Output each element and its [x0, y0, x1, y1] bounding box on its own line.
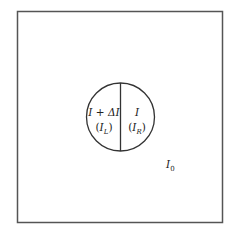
right-half-sub-label: (IR) — [128, 121, 146, 136]
right-half-main-label: I — [134, 106, 140, 118]
left-half-sub-label: (IL) — [95, 121, 112, 136]
diagram-canvas: I + ΔI (IL) I (IR) I0 — [0, 0, 234, 233]
left-half-main-label: I + ΔI — [87, 106, 120, 118]
background-intensity-label: I0 — [165, 158, 175, 173]
